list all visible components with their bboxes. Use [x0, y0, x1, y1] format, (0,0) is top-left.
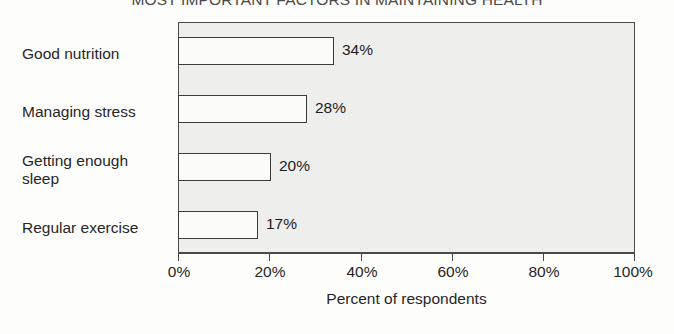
bar-regular-exercise — [178, 211, 258, 239]
x-axis-tick-label-60: 60% — [437, 263, 468, 281]
x-axis-tick-80 — [543, 253, 544, 261]
value-label-getting-enough-sleep: 20% — [279, 152, 310, 180]
x-axis-tick-100 — [634, 253, 635, 261]
x-axis-tick-20 — [269, 253, 270, 261]
category-label-line1: Regular exercise — [22, 219, 138, 236]
x-axis-tick-label-0: 0% — [168, 263, 190, 281]
x-axis-tick-label-40: 40% — [346, 263, 377, 281]
value-label-regular-exercise: 17% — [266, 210, 297, 238]
bar-getting-enough-sleep — [178, 153, 271, 181]
category-label-line2: sleep — [22, 170, 59, 187]
x-axis-tick-label-80: 80% — [528, 263, 559, 281]
bar-managing-stress — [178, 95, 307, 123]
value-label-good-nutrition: 34% — [342, 36, 373, 64]
x-axis-line — [178, 253, 635, 254]
x-axis-tick-60 — [452, 253, 453, 261]
chart-figure: MOST IMPORTANT FACTORS IN MAINTAINING HE… — [0, 0, 674, 334]
chart-title: MOST IMPORTANT FACTORS IN MAINTAINING HE… — [0, 0, 674, 9]
category-label-line1: Good nutrition — [22, 45, 119, 62]
category-label-regular-exercise: Regular exercise — [22, 219, 174, 237]
value-label-managing-stress: 28% — [315, 94, 346, 122]
x-axis-tick-0 — [178, 253, 179, 261]
category-label-line1: Managing stress — [22, 103, 136, 120]
category-label-managing-stress: Managing stress — [22, 103, 174, 121]
x-axis-tick-label-20: 20% — [254, 263, 285, 281]
chart-title-clip: MOST IMPORTANT FACTORS IN MAINTAINING HE… — [0, 0, 674, 9]
category-label-good-nutrition: Good nutrition — [22, 45, 174, 63]
category-label-getting-enough-sleep: Getting enough sleep — [22, 152, 174, 188]
x-axis-tick-label-100: 100% — [613, 263, 653, 281]
x-axis-title: Percent of respondents — [178, 290, 635, 308]
plot-area — [178, 22, 635, 253]
bar-good-nutrition — [178, 37, 334, 65]
x-axis-tick-40 — [361, 253, 362, 261]
category-label-line1: Getting enough — [22, 152, 128, 169]
